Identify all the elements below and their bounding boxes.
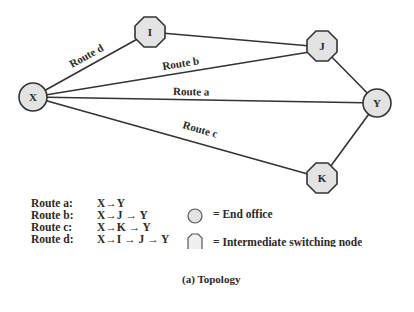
- edge-x-k: [33, 97, 322, 178]
- svg-text:X: X: [29, 91, 37, 103]
- route-path: X→K → Y: [97, 221, 151, 233]
- route-row: Route a:X→Y: [31, 197, 169, 209]
- svg-text:K: K: [318, 172, 327, 184]
- edge-x-y: [33, 97, 377, 103]
- node-i: I: [135, 17, 165, 47]
- route-name: Route d:: [31, 233, 97, 245]
- route-name: Route c:: [31, 221, 97, 233]
- legend-intermediate-label: = Intermediate switching node: [213, 236, 362, 247]
- svg-text:Y: Y: [373, 97, 381, 109]
- edge-label-route-d: Route d: [67, 41, 105, 69]
- route-path: X→Y: [97, 197, 125, 209]
- route-path: X→J → Y: [97, 209, 148, 221]
- edge-i-j: [150, 32, 322, 47]
- topology-diagram: Route d Route b Route a Route c X I J Y …: [0, 0, 414, 312]
- legend-end-office-icon: [188, 209, 202, 223]
- edge-label-route-a: Route a: [173, 85, 210, 98]
- edge-label-route-c: Route c: [181, 118, 219, 139]
- figure-caption: (a) Topology: [182, 273, 240, 285]
- route-name: Route a:: [31, 197, 97, 209]
- route-path: X→I → J → Y: [97, 233, 169, 245]
- route-list: Route a:X→Y Route b:X→J → Y Route c:X→K …: [31, 197, 169, 245]
- node-x: X: [19, 83, 47, 111]
- node-j: J: [307, 31, 337, 61]
- node-y: Y: [363, 89, 391, 117]
- legend-intermediate-node-icon: [188, 234, 202, 249]
- route-row: Route c:X→K → Y: [31, 221, 169, 233]
- svg-text:J: J: [319, 40, 325, 52]
- node-k: K: [307, 163, 337, 193]
- edge-label-route-b: Route b: [161, 54, 199, 72]
- route-row: Route b:X→J → Y: [31, 209, 169, 221]
- svg-text:I: I: [148, 26, 152, 38]
- route-name: Route b:: [31, 209, 97, 221]
- legend-end-office-label: = End office: [213, 208, 273, 220]
- route-row: Route d:X→I → J → Y: [31, 233, 169, 245]
